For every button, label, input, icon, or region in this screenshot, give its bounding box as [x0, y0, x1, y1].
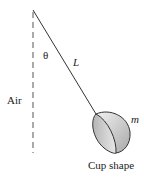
mass-label: m [131, 114, 139, 125]
length-label: L [73, 57, 79, 68]
pendulum-string [33, 10, 96, 114]
pendulum-diagram [0, 0, 144, 178]
caption-label: Cup shape [88, 160, 134, 171]
medium-label: Air [7, 95, 22, 106]
theta-label: θ [43, 50, 48, 61]
